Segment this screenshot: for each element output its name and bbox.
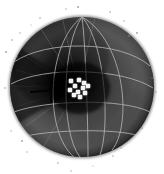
background-star bbox=[155, 91, 157, 93]
cluster-point bbox=[78, 95, 82, 99]
background-star bbox=[77, 6, 79, 8]
background-star bbox=[128, 35, 129, 36]
background-star bbox=[112, 155, 114, 157]
background-star bbox=[109, 11, 111, 13]
background-star bbox=[4, 87, 6, 89]
background-star bbox=[11, 39, 13, 41]
background-star bbox=[16, 56, 17, 57]
sphere-render bbox=[0, 0, 164, 174]
background-star bbox=[21, 140, 23, 142]
background-star bbox=[123, 20, 124, 21]
cluster-point bbox=[86, 84, 90, 88]
background-star bbox=[65, 8, 66, 9]
cluster-point bbox=[69, 79, 73, 83]
figure-canvas: Grayscale volumetric sphere render with … bbox=[0, 0, 164, 174]
background-star bbox=[19, 32, 20, 33]
background-star bbox=[30, 24, 31, 25]
background-star bbox=[141, 127, 143, 129]
background-star bbox=[57, 162, 59, 164]
cluster-point bbox=[73, 84, 77, 88]
background-star bbox=[39, 17, 41, 19]
cluster-point bbox=[77, 78, 81, 82]
background-star bbox=[92, 165, 93, 166]
cluster-point bbox=[83, 91, 87, 95]
cluster-point bbox=[72, 93, 76, 97]
background-star bbox=[70, 170, 71, 171]
background-star bbox=[10, 130, 11, 131]
background-star bbox=[26, 151, 27, 152]
background-star bbox=[136, 32, 138, 34]
background-star bbox=[5, 51, 7, 53]
cluster-point bbox=[68, 88, 72, 92]
background-star bbox=[151, 77, 152, 78]
background-star bbox=[120, 147, 121, 148]
